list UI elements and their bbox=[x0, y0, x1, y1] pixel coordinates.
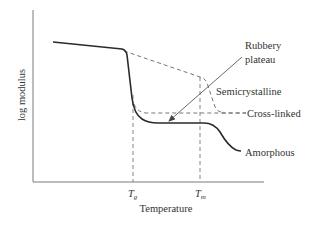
semicrystalline-label: Semicrystalline bbox=[216, 86, 282, 97]
tg-tick-subscript: g bbox=[134, 193, 138, 201]
amorphous-curve bbox=[53, 42, 241, 151]
rubbery-plateau-label-line2: plateau bbox=[245, 54, 276, 65]
amorphous-label: Amorphous bbox=[245, 147, 295, 158]
y-axis-title: log modulus bbox=[16, 69, 27, 121]
modulus-temperature-chart: Rubbery plateau Semicrystalline Cross-li… bbox=[0, 0, 316, 225]
tg-tick-label: Tg bbox=[128, 188, 138, 201]
x-axis-title: Temperature bbox=[140, 203, 193, 214]
tm-tick-label: Tm bbox=[195, 188, 206, 201]
crosslinked-curve bbox=[134, 104, 246, 113]
rubbery-plateau-label-line1: Rubbery bbox=[245, 40, 282, 51]
tm-tick-subscript: m bbox=[201, 193, 206, 201]
semicrystalline-curve bbox=[124, 51, 221, 112]
crosslinked-label: Cross-linked bbox=[247, 108, 301, 119]
